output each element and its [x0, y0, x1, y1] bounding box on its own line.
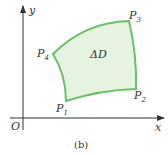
svg-text:P2: P2 — [133, 89, 146, 104]
x-axis-label: x — [155, 121, 162, 134]
svg-text:P4: P4 — [36, 47, 49, 62]
origin-label: O — [11, 120, 20, 133]
region-label: ΔD — [89, 48, 107, 61]
svg-text:P1: P1 — [55, 102, 68, 117]
caption: (b) — [74, 139, 88, 150]
diagram-canvas: y x O ΔD P1 P2 P3 P4 (b) — [0, 0, 168, 156]
y-axis-label: y — [28, 4, 36, 17]
point-p3: P3 — [128, 9, 141, 24]
region-delta-d — [53, 21, 136, 101]
point-p4: P4 — [36, 47, 49, 62]
svg-text:P3: P3 — [128, 9, 141, 24]
point-p1: P1 — [55, 102, 68, 117]
diagram: y x O ΔD P1 P2 P3 P4 (b) — [0, 0, 168, 156]
point-p2: P2 — [133, 89, 146, 104]
